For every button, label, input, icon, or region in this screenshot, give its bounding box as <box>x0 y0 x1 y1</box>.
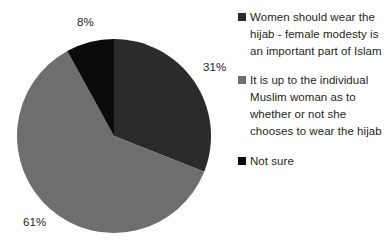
pie-chart-figure: 31% 61% 8% Women should wear the hijab -… <box>0 0 384 250</box>
legend-item-2: Not sure <box>238 153 384 170</box>
legend-label-0: Women should wear the hijab - female mod… <box>250 9 384 59</box>
legend-item-1: It is up to the individual Muslim woman … <box>238 72 384 139</box>
data-label-slice-0: 31% <box>203 62 226 74</box>
legend-swatch-icon-2 <box>238 157 246 165</box>
pie-slice-group <box>17 39 211 233</box>
pie-plot-area: 31% 61% 8% <box>0 0 232 250</box>
legend-swatch-icon-0 <box>238 13 246 21</box>
data-label-slice-1: 61% <box>23 217 46 229</box>
legend-label-2: Not sure <box>250 153 294 170</box>
pie-svg <box>0 0 232 250</box>
data-label-slice-2: 8% <box>77 17 94 29</box>
chart-legend: Women should wear the hijab - female mod… <box>238 9 384 169</box>
legend-swatch-icon-1 <box>238 76 246 84</box>
legend-item-0: Women should wear the hijab - female mod… <box>238 9 384 59</box>
legend-label-1: It is up to the individual Muslim woman … <box>250 72 384 139</box>
